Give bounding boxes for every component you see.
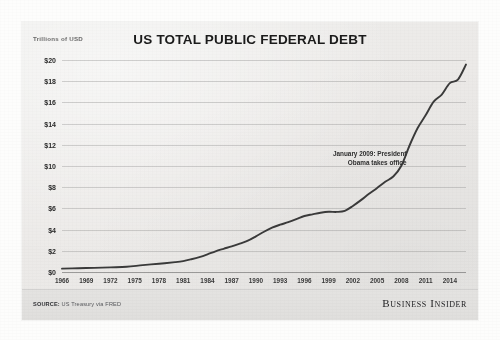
y-tick-label: $12 [44,141,56,148]
source-credit: SOURCE: US Treasury via FRED [33,301,121,307]
y-tick-label: $10 [44,163,56,170]
chart-page: US TOTAL PUBLIC FEDERAL DEBT Trillions o… [0,0,500,340]
x-tick-label: 1990 [249,277,263,284]
y-tick-label: $6 [48,205,56,212]
y-tick-label: $14 [44,120,56,127]
chart-footer: SOURCE: US Treasury via FRED Business In… [22,289,478,320]
x-tick-label: 2014 [443,277,457,284]
x-tick-label: 1999 [322,277,336,284]
y-axis-unit-label: Trillions of USD [33,35,83,42]
x-tick-label: 2008 [394,277,408,284]
chart-title: US TOTAL PUBLIC FEDERAL DEBT [22,32,478,47]
y-tick-label: $18 [44,78,56,85]
x-tick-label: 1975 [128,277,142,284]
annotation-line-2: Obama takes office [62,158,406,167]
x-tick-label: 1984 [200,277,214,284]
annotation-line-1: January 2009: President [62,149,406,158]
y-tick-label: $4 [48,226,56,233]
y-tick-label: $2 [48,247,56,254]
x-tick-label: 1987 [225,277,239,284]
x-tick-label: 1966 [55,277,69,284]
obama-annotation: January 2009: President Obama takes offi… [62,149,406,168]
y-tick-label: $16 [44,99,56,106]
source-value: US Treasury via FRED [62,301,122,307]
x-tick-label: 2005 [370,277,384,284]
x-tick-label: 2002 [346,277,360,284]
x-tick-label: 2011 [419,277,433,284]
x-tick-label: 1978 [152,277,166,284]
x-tick-label: 1972 [103,277,117,284]
x-tick-label: 1969 [79,277,93,284]
chart-card: US TOTAL PUBLIC FEDERAL DEBT Trillions o… [22,22,478,320]
x-tick-label: 1993 [273,277,287,284]
y-tick-label: $20 [44,57,56,64]
x-tick-label: 1981 [176,277,190,284]
y-tick-label: $8 [48,184,56,191]
y-tick-label: $0 [48,269,56,276]
gridline-0 [62,272,466,273]
source-label: SOURCE: [33,301,60,307]
plot-area: $0$2$4$6$8$10$12$14$16$18$20 19661969197… [62,60,466,272]
business-insider-logo: Business Insider [382,297,467,309]
x-tick-label: 1996 [297,277,311,284]
